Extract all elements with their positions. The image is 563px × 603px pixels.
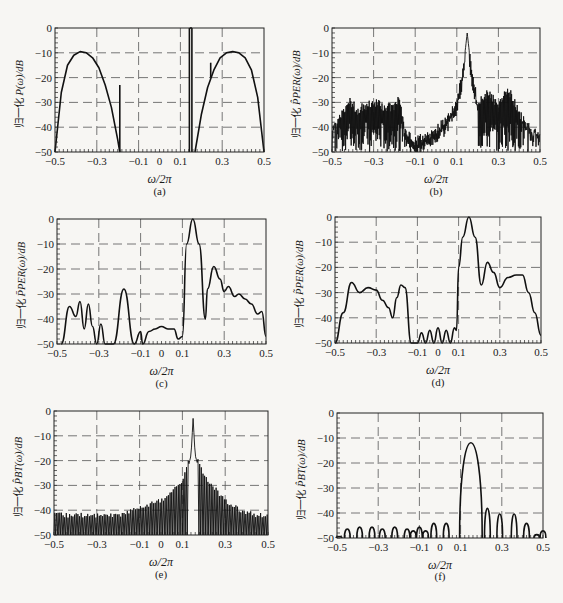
y-tick-label: −10	[34, 430, 52, 442]
x-tick-label: 0.3	[215, 155, 229, 167]
spectrum-curve	[332, 33, 540, 152]
spectrum-curve	[55, 52, 120, 152]
panel-d: −0.5−0.3−0.100.10.30.50−10−20−30−40−50ω/…	[293, 211, 548, 389]
y-tick-label: −20	[34, 455, 52, 467]
y-tick-label: −30	[312, 96, 330, 108]
y-tick-label: 0	[324, 22, 330, 34]
x-tick-label: −0.3	[368, 541, 388, 553]
panel-caption: (e)	[155, 568, 168, 581]
x-tick-label: −0.3	[364, 155, 384, 167]
x-tick-label: 0.1	[452, 346, 466, 358]
x-tick-label: 0.5	[261, 538, 275, 550]
x-axis-label: ω/2π	[148, 172, 173, 186]
x-tick-label: −0.1	[131, 347, 151, 359]
y-tick-label: −30	[315, 287, 333, 299]
x-tick-label: −0.1	[129, 155, 149, 167]
x-tick-label: 0.5	[533, 155, 547, 167]
y-tick-label: −10	[312, 47, 330, 59]
data-curves	[336, 443, 546, 538]
panel-caption: (c)	[155, 377, 168, 390]
x-axis-label: ω/2π	[426, 363, 451, 377]
x-tick-label: 0.1	[176, 347, 190, 359]
x-axis-label: ω/2π	[150, 364, 175, 378]
y-axis-label: 归一化 P̃PER(ω)/dB	[293, 240, 306, 328]
y-tick-label: −50	[317, 532, 335, 544]
y-tick-label: −20	[37, 263, 55, 275]
x-tick-label: 0.5	[257, 155, 271, 167]
x-axis-label: ω/2π	[424, 172, 449, 186]
grid-lines	[57, 219, 266, 344]
y-tick-label: −30	[34, 479, 52, 491]
x-tick-label: −0.3	[89, 347, 109, 359]
data-curves	[335, 217, 541, 343]
spectrum-curve	[336, 443, 546, 538]
y-tick-label: −50	[37, 338, 55, 350]
y-tick-label: −20	[315, 261, 333, 273]
y-axis-label: 归一化 P(ω)/dB	[13, 59, 26, 128]
x-tick-label: 0.1	[450, 155, 464, 167]
y-tick-label: −40	[34, 504, 52, 516]
x-tick-label: −0.3	[87, 155, 107, 167]
y-tick-label: −10	[35, 47, 53, 59]
y-tick-label: −10	[317, 432, 335, 444]
y-tick-label: −50	[315, 337, 333, 349]
data-curves	[61, 219, 266, 344]
x-tick-label: 0	[159, 347, 165, 359]
y-tick-label: −30	[35, 96, 53, 108]
data-curves	[55, 28, 264, 152]
grid-lines	[55, 28, 264, 152]
axis-ticks	[57, 219, 266, 344]
x-tick-label: −0.1	[405, 155, 425, 167]
x-tick-label: 0.3	[492, 155, 506, 167]
y-tick-label: −50	[35, 146, 53, 158]
x-tick-label: 0.3	[493, 346, 507, 358]
y-tick-label: −20	[35, 72, 53, 84]
x-tick-label: 0.1	[454, 541, 468, 553]
panel-caption: (d)	[432, 376, 445, 389]
x-tick-label: 0.5	[259, 347, 273, 359]
x-tick-label: −0.1	[409, 541, 429, 553]
x-axis-label: ω/2π	[149, 555, 174, 569]
y-tick-label: 0	[46, 405, 52, 417]
y-axis-label: 归一化 P̄PER(ω)/dB	[15, 241, 28, 329]
panel-f: −0.5−0.3−0.100.10.30.50−10−20−30−40−50ω/…	[295, 407, 550, 583]
x-tick-label: 0.1	[174, 155, 188, 167]
data-curves	[332, 33, 540, 152]
plot-frame	[55, 28, 264, 152]
spectrum-curve	[335, 217, 541, 343]
y-tick-label: 0	[329, 407, 335, 419]
x-tick-label: −0.3	[366, 346, 386, 358]
x-tick-label: −0.3	[87, 538, 107, 550]
y-tick-label: −20	[317, 457, 335, 469]
grid-lines	[335, 217, 541, 343]
x-tick-label: 0	[437, 541, 443, 553]
y-tick-label: −40	[312, 121, 330, 133]
spectrum-curve	[195, 52, 264, 152]
panel-caption: (f)	[435, 570, 446, 583]
x-tick-label: −0.1	[407, 346, 427, 358]
y-tick-label: −40	[37, 313, 55, 325]
y-tick-label: −10	[315, 236, 333, 248]
panel-caption: (a)	[153, 185, 166, 198]
x-tick-label: 0.5	[536, 541, 550, 553]
y-tick-label: −40	[315, 312, 333, 324]
panel-caption: (b)	[430, 185, 443, 198]
axis-ticks	[55, 28, 264, 152]
panel-c: −0.5−0.3−0.100.10.30.50−10−20−30−40−50ω/…	[15, 213, 273, 390]
x-tick-label: 0.3	[218, 538, 232, 550]
axis-ticks	[335, 217, 541, 343]
y-axis-label: 归一化 P̂BT(ω)/dB	[12, 436, 25, 517]
panel-a: −0.5−0.3−0.100.10.30.50−10−20−30−40−50ω/…	[13, 22, 271, 198]
panel-e: −0.5−0.3−0.100.10.30.50−10−20−30−40−50ω/…	[12, 405, 275, 581]
x-tick-label: 0	[158, 538, 164, 550]
y-tick-label: −20	[312, 72, 330, 84]
x-tick-label: 0	[157, 155, 163, 167]
figure-canvas: −0.5−0.3−0.100.10.30.50−10−20−30−40−50ω/…	[0, 0, 563, 603]
y-tick-label: −30	[317, 482, 335, 494]
x-tick-label: −0.1	[130, 538, 150, 550]
spectrum-curve	[61, 219, 266, 344]
y-tick-label: −50	[312, 146, 330, 158]
y-tick-label: −50	[34, 529, 52, 541]
plot-frame	[57, 219, 266, 344]
y-axis-label: 归一化 P̂BT(ω)/dB	[295, 439, 308, 520]
